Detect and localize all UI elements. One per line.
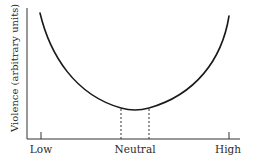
x-tick-label-neutral: Neutral — [114, 143, 156, 155]
x-tick-label-high: High — [215, 143, 241, 155]
violence-curve — [40, 13, 229, 110]
y-axis-title: Violence (arbitrary units) — [9, 4, 20, 133]
x-tick-label-low: Low — [30, 143, 52, 155]
u-shaped-violence-chart: Violence (arbitrary units) Low Neutral H… — [0, 0, 253, 164]
